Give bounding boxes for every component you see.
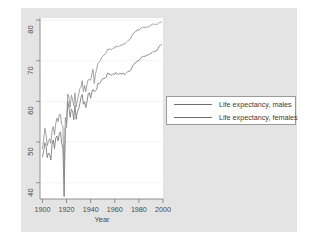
- y-tick-label: 40: [26, 182, 35, 202]
- y-tick-label: 70: [26, 60, 35, 80]
- x-axis-title: Year: [76, 215, 128, 224]
- x-tick-label: 1920: [54, 205, 80, 214]
- legend-swatch-males: [174, 104, 212, 105]
- legend-item-males[interactable]: Life expectancy, males: [167, 98, 297, 111]
- x-tick-label: 1980: [126, 205, 152, 214]
- legend-swatch-females: [174, 117, 212, 118]
- legend-label-females: Life expectancy, females: [219, 111, 298, 124]
- legend-item-females[interactable]: Life expectancy, females: [167, 111, 297, 124]
- chart-figure: 8070605040 190019201940196019802000 Year…: [0, 0, 318, 249]
- legend-label-males: Life expectancy, males: [219, 98, 292, 111]
- axis-ticks: [36, 20, 163, 203]
- axis-lines: [40, 18, 163, 199]
- x-tick-label: 2000: [150, 205, 176, 214]
- y-tick-label: 50: [26, 142, 35, 162]
- y-tick-label: 80: [26, 20, 35, 40]
- legend: Life expectancy, males Life expectancy, …: [166, 96, 296, 125]
- x-tick-label: 1960: [102, 205, 128, 214]
- y-tick-label: 60: [26, 101, 35, 121]
- x-tick-label: 1940: [78, 205, 104, 214]
- data-series: [42, 22, 161, 196]
- x-tick-label: 1900: [29, 205, 55, 214]
- gridlines: [41, 20, 163, 183]
